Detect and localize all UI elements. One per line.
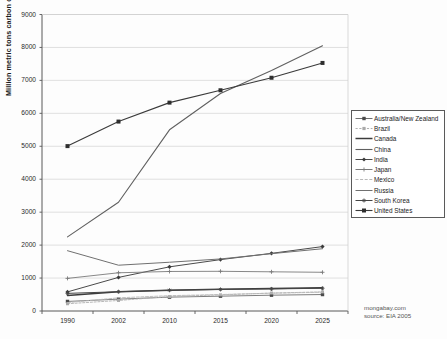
x-tick-label: 2010	[155, 317, 185, 324]
grid-lines	[42, 15, 348, 279]
x-tick-label: 2015	[206, 317, 236, 324]
legend-item-united-states[interactable]: United States	[354, 206, 444, 216]
legend-item-label: China	[374, 145, 391, 154]
legend-item-label: Mexico	[374, 175, 394, 184]
y-tick-label: 0	[12, 307, 36, 314]
legend-item-india[interactable]: India	[354, 154, 444, 164]
legend-marker-icon	[354, 155, 374, 164]
legend-marker-icon	[354, 114, 374, 123]
legend-marker-icon	[354, 206, 374, 215]
y-tick-label: 1000	[12, 274, 36, 281]
legend-item-brazil[interactable]: Brazil	[354, 123, 444, 133]
legend-marker-icon	[354, 196, 374, 205]
y-tick-label: 4000	[12, 175, 36, 182]
legend-item-south-korea[interactable]: South Korea	[354, 195, 444, 205]
axis-lines	[42, 15, 348, 312]
series-united-states	[66, 61, 325, 148]
legend-marker-icon	[354, 134, 374, 143]
y-tick-label: 7000	[12, 76, 36, 83]
legend-item-label: United States	[374, 206, 412, 215]
y-tick-label: 2000	[12, 241, 36, 248]
x-tick-label: 1990	[53, 317, 83, 324]
credit-site: mongabay.com	[364, 304, 411, 312]
x-tick-label: 2025	[308, 317, 338, 324]
legend-item-label: Australia/New Zealand	[374, 114, 438, 123]
legend-item-japan[interactable]: Japan	[354, 164, 444, 174]
series-japan	[66, 269, 325, 280]
legend-marker-icon	[354, 186, 374, 195]
legend-item-russia[interactable]: Russia	[354, 185, 444, 195]
legend-marker-icon	[354, 175, 374, 184]
x-tick-label: 2020	[257, 317, 287, 324]
chart-legend: Australia/New ZealandBrazilCanadaChinaIn…	[351, 110, 445, 218]
y-tick-label: 8000	[12, 43, 36, 50]
y-tick-label: 6000	[12, 109, 36, 116]
legend-item-label: South Korea	[374, 196, 410, 205]
legend-item-label: Canada	[374, 134, 396, 143]
credit-block: mongabay.com source: EIA 2005	[364, 304, 411, 321]
y-tick-label: 3000	[12, 208, 36, 215]
legend-item-label: Russia	[374, 186, 394, 195]
y-tick-label: 9000	[12, 11, 36, 18]
legend-item-australia-new-zealand[interactable]: Australia/New Zealand	[354, 113, 444, 123]
legend-marker-icon	[354, 165, 374, 174]
data-series	[65, 46, 324, 305]
chart-container: Million metric tons carbon dioxide 01000…	[0, 0, 447, 339]
y-tick-label: 5000	[12, 142, 36, 149]
legend-item-china[interactable]: China	[354, 144, 444, 154]
credit-source: source: EIA 2005	[364, 312, 411, 320]
axis-ticks	[40, 15, 349, 315]
legend-marker-icon	[354, 124, 374, 133]
legend-marker-icon	[354, 145, 374, 154]
series-australia-new-zealand	[66, 293, 324, 303]
legend-item-mexico[interactable]: Mexico	[354, 175, 444, 185]
legend-item-label: India	[374, 155, 388, 164]
legend-item-label: Japan	[374, 165, 391, 174]
legend-item-label: Brazil	[374, 124, 390, 133]
x-tick-label: 2002	[104, 317, 134, 324]
legend-item-canada[interactable]: Canada	[354, 134, 444, 144]
